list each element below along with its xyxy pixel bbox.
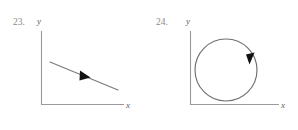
plot-area-24 [149,0,298,130]
direction-arrowhead-icon-23 [80,71,91,81]
figure-24: 24. y x [149,0,298,130]
orbit-circle-24 [195,39,257,101]
figure-23: 23. y x [0,0,149,130]
figure-page: 23. y x 24. y x [0,0,298,130]
plot-area-23 [0,0,149,130]
direction-arrowhead-icon-24 [246,53,255,65]
